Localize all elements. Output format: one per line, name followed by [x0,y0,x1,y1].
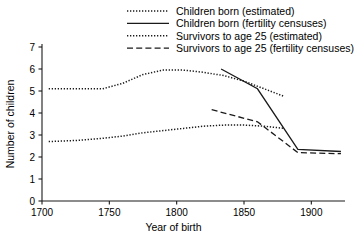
y-tick-label-5: 5 [29,86,35,97]
y-tick-label-1: 1 [29,174,35,185]
x-tick-label-3: 1850 [233,207,256,218]
y-axis-title: Number of children [4,79,16,168]
y-tick-label-0: 0 [29,196,35,207]
x-axis-title: Year of birth [145,221,201,233]
legend-label-2: Children born (fertility censuses) [176,17,327,29]
series-line-1 [49,70,285,96]
line-chart: Children born (estimated)Children born (… [0,0,362,242]
y-tick-label-6: 6 [29,64,35,75]
y-tick-label-4: 4 [29,108,35,119]
legend-label-1: Children born (estimated) [176,5,294,17]
legend-label-3: Survivors to age 25 (estimated) [176,30,322,42]
y-tick-label-3: 3 [29,130,35,141]
chart-axes: 0123456717001750180018501900 [29,42,345,218]
x-tick-label-0: 1700 [31,207,54,218]
series-line-3 [49,125,285,142]
x-tick-label-2: 1800 [166,207,189,218]
y-tick-label-7: 7 [29,42,35,53]
x-tick-label-1: 1750 [98,207,121,218]
x-tick-label-4: 1900 [300,207,323,218]
legend-label-4: Survivors to age 25 (fertility censuses) [176,42,354,54]
y-tick-label-2: 2 [29,152,35,163]
chart-series [49,69,341,154]
chart-legend: Children born (estimated)Children born (… [127,5,354,54]
chart-figure: Children born (estimated)Children born (… [0,0,362,242]
